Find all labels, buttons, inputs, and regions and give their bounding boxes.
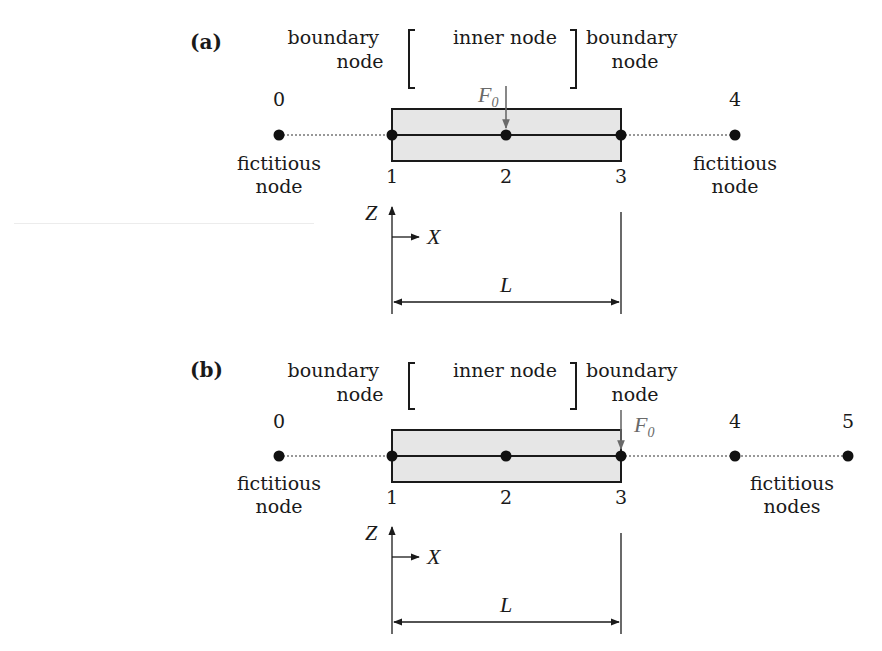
right-boundary-label-line2: node [611, 383, 658, 405]
node-number-3: 3 [615, 486, 627, 508]
node-4 [730, 130, 741, 141]
left-boundary-label-line1: boundary [288, 359, 380, 381]
length-label: L [499, 272, 512, 297]
panel-b: (b) boundary node inner node boundary no… [190, 358, 854, 634]
node-number-4: 4 [729, 410, 741, 432]
right-bracket [570, 30, 576, 88]
node-3 [616, 130, 627, 141]
right-boundary-label-line1: boundary [586, 26, 678, 48]
node-number-3: 3 [615, 165, 627, 187]
x-axis-label: X [426, 224, 442, 249]
node-1 [387, 130, 398, 141]
node-5 [843, 451, 854, 462]
node-number-5: 5 [842, 410, 854, 432]
node-number-2: 2 [500, 165, 512, 187]
node-number-2: 2 [500, 486, 512, 508]
node-number-0: 0 [273, 410, 285, 432]
node-0 [274, 130, 285, 141]
inner-node-label: inner node [453, 26, 557, 48]
node-1 [387, 451, 398, 462]
node-4 [730, 451, 741, 462]
fictitious-left-label-line1: fictitious [237, 472, 321, 494]
length-label: L [499, 592, 512, 617]
fd-beam-diagram: (a) boundary node inner node boundary no… [0, 0, 882, 651]
fictitious-left-label-line2: node [255, 495, 302, 517]
left-boundary-label-line1: boundary [288, 26, 380, 48]
fictitious-left-label-line2: node [255, 175, 302, 197]
z-axis-label: Z [365, 200, 378, 225]
node-number-4: 4 [729, 88, 741, 110]
node-2 [501, 130, 512, 141]
right-boundary-label-line1: boundary [586, 359, 678, 381]
left-boundary-label-line2: node [336, 383, 383, 405]
node-number-0: 0 [273, 88, 285, 110]
left-bracket [409, 363, 415, 409]
fictitious-right-label-line1: fictitious [693, 152, 777, 174]
fictitious-left-label-line1: fictitious [237, 152, 321, 174]
force-symbol: F0 [633, 412, 654, 440]
right-boundary-label-line2: node [611, 50, 658, 72]
fictitious-right-label-line2: nodes [764, 495, 821, 517]
fictitious-right-label-line2: node [711, 175, 758, 197]
node-0 [274, 451, 285, 462]
panel-label: (b) [190, 358, 223, 382]
force-symbol: F0 [477, 82, 498, 110]
right-bracket [570, 363, 576, 409]
x-axis-label: X [426, 544, 442, 569]
node-2 [501, 451, 512, 462]
inner-node-label: inner node [453, 359, 557, 381]
left-boundary-label-line2: node [336, 50, 383, 72]
left-bracket [409, 30, 415, 88]
node-3 [616, 451, 627, 462]
fictitious-right-label-line1: fictitious [750, 472, 834, 494]
node-number-1: 1 [386, 165, 398, 187]
panel-a: (a) boundary node inner node boundary no… [190, 26, 777, 314]
panel-label: (a) [190, 30, 222, 54]
node-number-1: 1 [386, 486, 398, 508]
z-axis-label: Z [365, 520, 378, 545]
